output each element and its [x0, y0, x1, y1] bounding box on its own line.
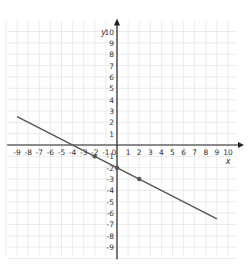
y-tick-label: -6: [107, 209, 115, 218]
y-tick-label: 9: [109, 39, 114, 48]
y-tick-label: 2: [109, 118, 114, 127]
x-tick-label: 8: [203, 148, 208, 157]
x-axis-label: x: [225, 157, 231, 166]
y-tick-label: -8: [107, 232, 115, 241]
y-axis-arrow-icon: [114, 19, 120, 26]
y-tick-label: -9: [107, 243, 115, 252]
y-tick-label: 4: [109, 96, 114, 105]
x-tick-label: 9: [215, 148, 220, 157]
data-point: [93, 154, 97, 158]
data-point: [137, 177, 141, 181]
y-tick-label: 5: [109, 84, 114, 93]
tick-labels: -9-8-7-6-5-4-3-2-1012345678910-9-8-7-6-5…: [13, 28, 233, 253]
x-tick-label: 3: [148, 148, 153, 157]
x-tick-label: 5: [170, 148, 175, 157]
y-axis-label: y: [100, 28, 106, 37]
x-tick-label: 1: [126, 148, 131, 157]
x-tick-label: -8: [24, 148, 32, 157]
y-tick-label: 8: [109, 50, 114, 59]
x-axis-arrow-icon: [238, 142, 244, 148]
y-tick-label: -3: [107, 175, 115, 184]
y-tick-label: -1: [107, 152, 115, 161]
x-tick-label: 2: [137, 148, 142, 157]
data-point: [115, 166, 119, 170]
x-tick-label: 4: [159, 148, 164, 157]
x-tick-label: -7: [36, 148, 44, 157]
y-tick-label: -4: [107, 186, 115, 195]
y-tick-label: 7: [109, 62, 114, 71]
y-tick-label: 3: [109, 107, 114, 116]
x-tick-label: -6: [47, 148, 55, 157]
y-tick-label: -5: [107, 198, 115, 207]
grid-lines: [6, 22, 236, 259]
coordinate-plane: -9-8-7-6-5-4-3-2-1012345678910-9-8-7-6-5…: [0, 0, 249, 276]
y-tick-label: -7: [107, 220, 115, 229]
x-tick-label: -9: [13, 148, 21, 157]
x-tick-label: 6: [181, 148, 186, 157]
y-tick-label: 1: [109, 130, 114, 139]
y-tick-label: 6: [109, 73, 114, 82]
x-tick-label: -4: [69, 148, 77, 157]
x-tick-label: 10: [223, 148, 233, 157]
x-tick-label: 7: [192, 148, 197, 157]
x-tick-label: -5: [58, 148, 66, 157]
